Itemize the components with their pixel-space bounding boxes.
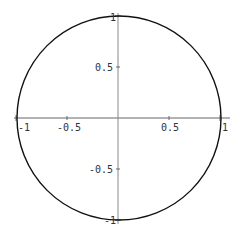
x-tick-label: -0.5 xyxy=(57,122,81,133)
x-tick-label: -1 xyxy=(18,122,30,133)
plot-area: -1 -0.5 0.5 1 1 0.5 -0.5 -1 xyxy=(0,0,237,235)
x-tick-label: 0.5 xyxy=(161,122,179,133)
y-tick-label: -0.5 xyxy=(89,164,113,175)
y-tick-label: 1 xyxy=(110,12,116,23)
y-tick-label: 0.5 xyxy=(95,62,113,73)
x-tick-label: 1 xyxy=(222,122,228,133)
y-tick-label: -1 xyxy=(104,215,116,226)
